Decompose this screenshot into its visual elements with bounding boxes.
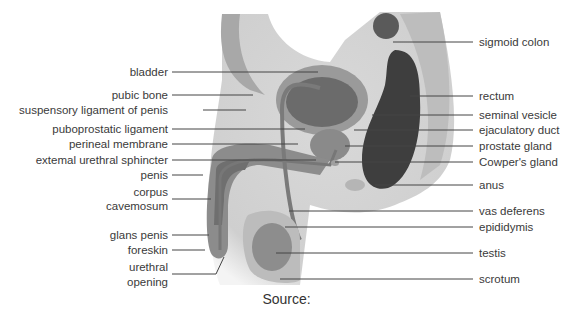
- source-caption: Source:: [0, 291, 573, 307]
- label-glans-penis: glans penis: [110, 229, 168, 242]
- cowpers-gland-shape: [331, 160, 339, 166]
- label-ejaculatory-duct: ejaculatory duct: [479, 124, 560, 137]
- label-opening: opening: [127, 276, 168, 289]
- label-foreskin: foreskin: [128, 244, 168, 257]
- label-testis: testis: [479, 247, 506, 260]
- label-perineal-membrane: perineal membrane: [69, 138, 168, 151]
- label-bladder: bladder: [130, 66, 168, 79]
- label-corpus: corpus: [133, 186, 168, 199]
- label-epididymis: epididymis: [479, 221, 533, 234]
- label-puboprostatic-ligament: puboprostatic ligament: [52, 123, 168, 136]
- label-vas-deferens: vas deferens: [479, 205, 545, 218]
- label-urethral: urethral: [129, 261, 168, 274]
- label-pubic-bone: pubic bone: [112, 89, 168, 102]
- testis-shape: [252, 223, 292, 271]
- label-cowpers-gland: Cowper's gland: [479, 156, 558, 169]
- label-suspensory-ligament: suspensory ligament of penis: [19, 104, 168, 117]
- label-scrotum: scrotum: [479, 273, 520, 286]
- label-cavernosum: cavemosum: [106, 200, 168, 213]
- label-prostate-gland: prostate gland: [479, 140, 552, 153]
- label-anus: anus: [479, 179, 504, 192]
- label-penis: penis: [141, 169, 169, 182]
- label-rectum: rectum: [479, 90, 514, 103]
- label-sigmoid-colon: sigmoid colon: [479, 36, 549, 49]
- label-external-urethral-sphincter: extemal urethral sphincter: [36, 154, 168, 167]
- label-seminal-vesicle: seminal vesicle: [479, 109, 557, 122]
- sigmoid-colon-shape: [373, 13, 399, 39]
- anal-sphincter-shape: [345, 179, 365, 191]
- prostate-shape: [310, 129, 350, 161]
